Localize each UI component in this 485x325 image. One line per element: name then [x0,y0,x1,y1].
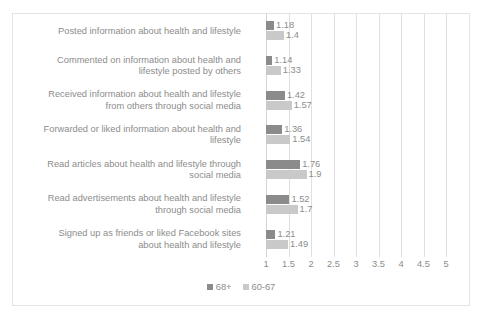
bar-value-label: 1.52 [291,195,309,204]
category-label-line: lifestyle posted by others [139,66,241,78]
x-tick-label: 4 [398,259,403,269]
x-tick-label: 1.5 [282,259,295,269]
category-label: Commented on information about health an… [13,49,241,84]
category-label-line: Received information about health and li… [48,89,241,101]
category-label-line: Forwarded or liked information about hea… [44,124,241,136]
x-tick-label: 4.5 [417,259,430,269]
bar-value-label: 1.33 [283,66,301,75]
x-tick-label: 5 [443,259,448,269]
category-label-line: lifestyle [210,135,241,147]
bar-group: 1.421.57 [254,83,471,118]
category-label: Forwarded or liked information about hea… [13,118,241,153]
legend-label: 68+ [216,283,232,292]
bar-68plus [266,21,274,30]
bar-68plus [266,91,285,100]
category-label: Received information about health and li… [13,83,241,118]
bar-value-label: 1.49 [290,240,308,249]
category-label-line: from others through social media [106,101,241,113]
legend-item[interactable]: 68+ [207,283,232,292]
bar-value-label: 1.57 [294,101,312,110]
category-label-line: Read advertisements about health and lif… [48,193,241,205]
x-tick-label: 3 [353,259,358,269]
bar-value-label: 1.7 [300,205,313,214]
category-label-line: Signed up as friends or liked Facebook s… [59,228,241,240]
bar-value-label: 1.18 [276,21,294,30]
bar-value-label: 1.36 [284,125,302,134]
chart-container: Posted information about health and life… [12,13,470,306]
bar-68plus [266,56,272,65]
bar-group: 1.181.4 [254,14,471,49]
category-label-line: social media [189,170,241,182]
bar-60-67 [266,135,290,144]
bar-value-label: 1.14 [274,56,292,65]
bar-60-67 [266,170,307,179]
bar-68plus [266,195,289,204]
bar-group: 1.521.7 [254,188,471,223]
bar-group: 1.211.49 [254,222,471,257]
category-label: Posted information about health and life… [13,14,241,49]
bar-60-67 [266,101,292,110]
category-label-line: about health and lifestyle [138,240,241,252]
category-label-line: through social media [155,205,241,217]
category-label-line: Posted information about health and life… [58,26,241,38]
chart-legend: 68+60-67 [13,280,469,294]
bar-group: 1.761.9 [254,153,471,188]
bar-value-label: 1.42 [287,91,305,100]
legend-item[interactable]: 60-67 [243,283,276,292]
bar-value-label: 1.4 [286,31,299,40]
legend-label: 60-67 [252,283,276,292]
x-axis: 11.522.533.544.55 [254,257,471,275]
legend-swatch-icon [207,284,213,290]
bar-60-67 [266,31,284,40]
bar-value-label: 1.54 [292,135,310,144]
category-label-line: Read articles about health and lifestyle… [47,159,241,171]
category-axis-labels: Posted information about health and life… [13,14,254,257]
x-tick-label: 1 [263,259,268,269]
bar-68plus [266,125,282,134]
legend-swatch-icon [243,284,249,290]
category-label: Read articles about health and lifestyle… [13,153,241,188]
bar-60-67 [266,66,281,75]
bar-value-label: 1.21 [277,230,295,239]
x-tick-label: 2.5 [327,259,340,269]
plot-area: 1.181.41.141.331.421.571.361.541.761.91.… [254,14,471,257]
bar-value-label: 1.76 [302,160,320,169]
bar-value-label: 1.9 [309,170,322,179]
bar-68plus [266,160,300,169]
chart-plot-body: Posted information about health and life… [13,14,469,257]
bar-group: 1.361.54 [254,118,471,153]
category-label: Read advertisements about health and lif… [13,188,241,223]
bar-60-67 [266,240,288,249]
bar-group: 1.141.33 [254,49,471,84]
x-tick-label: 3.5 [372,259,385,269]
x-tick-label: 2 [308,259,313,269]
category-label-line: Commented on information about health an… [57,55,241,67]
bar-68plus [266,230,275,239]
category-label: Signed up as friends or liked Facebook s… [13,222,241,257]
bar-60-67 [266,205,298,214]
